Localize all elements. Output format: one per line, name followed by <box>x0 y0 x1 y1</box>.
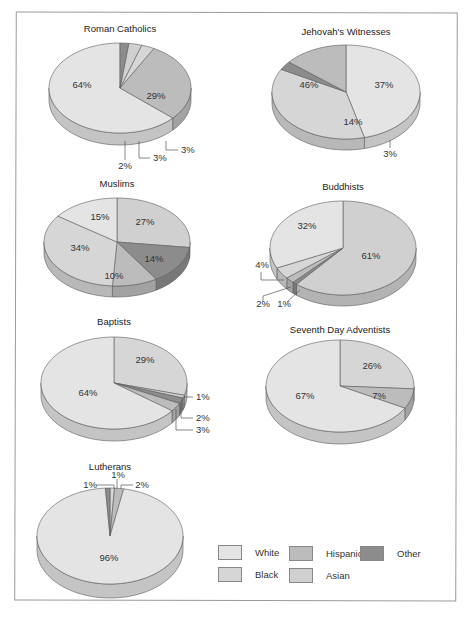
chart-title: Baptists <box>97 316 131 327</box>
chart-title: Seventh Day Adventists <box>290 324 391 335</box>
slice-label: 2% <box>135 479 149 490</box>
pie-chart-jehovah-s-witnesses: Jehovah's Witnesses46%37%3%14% <box>272 26 420 159</box>
slice-label: 1% <box>196 391 210 402</box>
pie-top <box>266 340 414 432</box>
slice-label: 64% <box>78 387 98 398</box>
slice-label: 26% <box>362 360 382 371</box>
legend-label: Asian <box>326 570 350 581</box>
legend: White Hispanic Other Black Asian <box>218 545 448 595</box>
slice-label: 27% <box>135 216 155 227</box>
pie-top <box>49 43 191 133</box>
slice-label: 34% <box>70 242 90 253</box>
slice-label: 3% <box>383 148 397 159</box>
slice-label: 10% <box>104 270 124 281</box>
slice-label: 4% <box>255 259 269 270</box>
leader-line <box>166 141 178 150</box>
pie-chart-lutherans: Lutherans1%2%96%1% <box>37 461 183 598</box>
slice-label: 14% <box>144 253 164 264</box>
legend-swatch-white <box>218 545 242 560</box>
chart-title: Muslims <box>100 178 135 189</box>
legend-item-white: White <box>218 545 279 560</box>
chart-title: Jehovah's Witnesses <box>302 26 391 37</box>
legend-label: White <box>255 547 279 558</box>
slice-label: 3% <box>196 424 210 435</box>
legend-item-hispanic: Hispanic <box>289 546 362 561</box>
legend-swatch-hispanic <box>289 546 313 561</box>
slice-label: 1% <box>277 298 291 309</box>
pie-chart-roman-catholics: Roman Catholics64%29%3%3%2% <box>49 23 195 171</box>
slice-label: 96% <box>99 552 119 563</box>
slice-label: 15% <box>90 211 110 222</box>
slice-label: 61% <box>361 250 381 261</box>
slice-label: 64% <box>72 79 92 90</box>
legend-swatch-asian <box>289 568 313 583</box>
slice-label: 2% <box>118 160 132 171</box>
slice-label: 3% <box>181 144 195 155</box>
chart-title: Buddhists <box>322 181 364 192</box>
pie-chart-seventh-day-adventists: Seventh Day Adventists26%7%67% <box>266 324 414 444</box>
slice-label: 32% <box>297 220 317 231</box>
pie-chart-buddhists: Buddhists61%1%2%4%32% <box>255 181 416 309</box>
pie-top <box>270 201 416 295</box>
legend-label: Hispanic <box>326 548 362 559</box>
slice-label: 14% <box>343 116 363 127</box>
slice-label: 2% <box>256 298 270 309</box>
leader-line <box>121 485 133 489</box>
pie-charts-canvas: Roman Catholics64%29%3%3%2%Jehovah's Wit… <box>0 0 465 625</box>
slice-label: 1% <box>111 469 125 480</box>
slice-label: 46% <box>299 79 319 90</box>
legend-label: Black <box>255 569 278 580</box>
slice-label: 29% <box>135 354 155 365</box>
chart-title: Lutherans <box>89 461 132 472</box>
slice-label: 1% <box>83 479 97 490</box>
legend-swatch-other <box>360 546 384 561</box>
pie-chart-baptists: Baptists29%1%2%3%64% <box>41 316 210 441</box>
slice-label: 3% <box>153 152 167 163</box>
pie-top <box>37 488 183 584</box>
legend-item-asian: Asian <box>289 568 350 583</box>
pie-top <box>41 337 187 429</box>
slice-label: 37% <box>374 79 394 90</box>
legend-label: Other <box>397 548 421 559</box>
pie-chart-muslims: Muslims27%14%10%34%15% <box>44 178 190 297</box>
legend-item-other: Other <box>360 546 421 561</box>
leader-line <box>139 141 150 158</box>
slice-label: 29% <box>146 90 166 101</box>
slice-label: 2% <box>196 412 210 423</box>
legend-item-black: Black <box>218 567 278 582</box>
slice-label: 7% <box>372 390 386 401</box>
slice-label: 67% <box>295 390 315 401</box>
chart-title: Roman Catholics <box>84 23 157 34</box>
legend-swatch-black <box>218 567 242 582</box>
